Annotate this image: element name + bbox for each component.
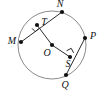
point-label-o: O	[43, 47, 50, 58]
geometry-figure: N M T P Q S O	[0, 0, 100, 93]
point-dot-t	[35, 23, 39, 27]
right-angle-mark-s	[67, 48, 74, 53]
circle-diagram: N M T P Q S O	[0, 0, 100, 93]
point-dot-q	[64, 73, 68, 77]
right-angle-mark-t	[32, 28, 39, 31]
point-dot-p	[83, 36, 87, 40]
point-label-p: P	[89, 30, 96, 41]
point-label-s: S	[66, 58, 71, 69]
point-label-m: M	[7, 35, 17, 46]
radius-os	[52, 45, 70, 57]
point-label-n: N	[56, 0, 65, 9]
point-label-q: Q	[61, 79, 69, 90]
radius-ot	[37, 25, 52, 45]
point-label-t: T	[41, 16, 48, 27]
point-dot-n	[60, 10, 64, 14]
point-dot-m	[19, 40, 23, 44]
